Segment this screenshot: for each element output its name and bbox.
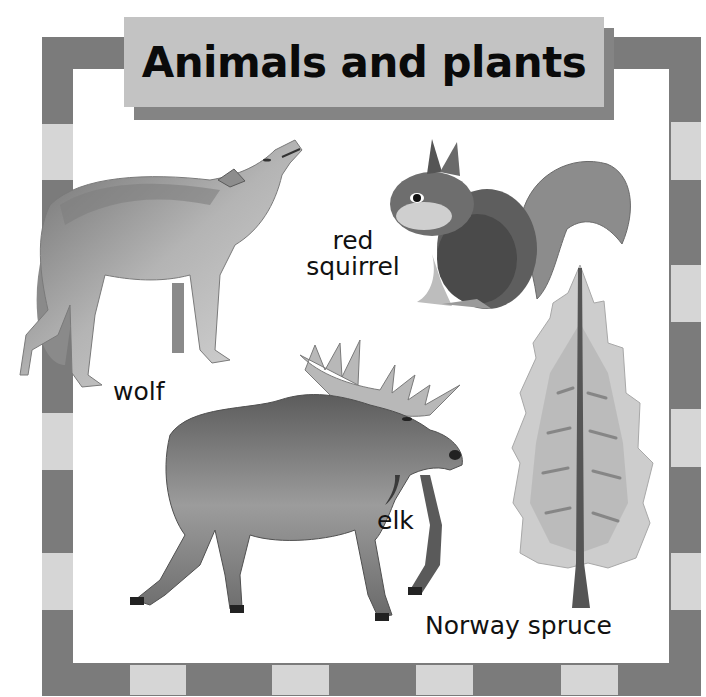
border-square-left-3	[42, 413, 73, 470]
border-square-left-4	[42, 553, 73, 610]
elk-illustration	[130, 325, 480, 625]
border-square-right-3	[671, 409, 701, 467]
border-square-right-4	[671, 553, 701, 610]
label-norway-spruce: Norway spruce	[425, 613, 612, 639]
border-square-right-1	[671, 122, 701, 180]
border-square-bottom-3	[416, 665, 473, 695]
border-square-bottom-1	[130, 665, 186, 695]
title-box: Animals and plants	[124, 17, 604, 107]
label-red-squirrel-line1: red	[293, 228, 413, 254]
label-red-squirrel: red squirrel	[293, 228, 413, 281]
spruce-tree-illustration	[508, 263, 653, 613]
page-title: Animals and plants	[142, 38, 587, 87]
border-square-bottom-2	[272, 665, 329, 695]
label-elk: elk	[377, 508, 414, 534]
border-square-right-2	[671, 265, 701, 322]
border-square-bottom-4	[561, 665, 618, 695]
label-red-squirrel-line2: squirrel	[293, 254, 413, 280]
